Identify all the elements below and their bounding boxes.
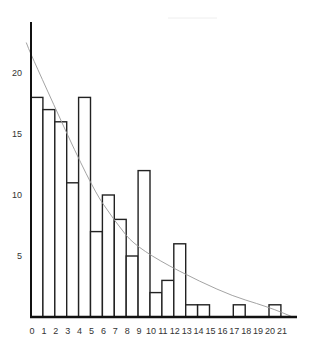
bar-6-7 xyxy=(102,195,114,317)
bar-10-11 xyxy=(150,293,162,317)
histogram-chart: 5101520 01234567891011121314151617181920… xyxy=(0,0,314,352)
bar-0-1 xyxy=(31,97,43,317)
bar-17-18 xyxy=(233,305,245,317)
x-tick-3: 3 xyxy=(65,326,70,336)
bar-9-10 xyxy=(138,171,150,317)
bar-14-15 xyxy=(198,305,210,317)
x-tick-16: 16 xyxy=(217,326,227,336)
bar-8-9 xyxy=(126,256,138,317)
x-tick-7: 7 xyxy=(113,326,118,336)
bar-13-14 xyxy=(186,305,198,317)
bar-2-3 xyxy=(55,122,67,317)
bars-group xyxy=(31,97,281,317)
x-tick-13: 13 xyxy=(182,326,192,336)
x-tick-11: 11 xyxy=(158,326,167,336)
bar-11-12 xyxy=(162,280,174,317)
x-tick-labels: 0123456789101112131415161718192021 xyxy=(29,326,286,336)
x-tick-10: 10 xyxy=(146,326,156,336)
x-tick-9: 9 xyxy=(137,326,142,336)
x-tick-21: 21 xyxy=(277,326,287,336)
bar-3-4 xyxy=(67,183,79,317)
y-tick-10: 10 xyxy=(12,190,22,200)
x-tick-1: 1 xyxy=(41,326,46,336)
x-tick-18: 18 xyxy=(241,326,251,336)
y-tick-15: 15 xyxy=(12,129,22,139)
bar-5-6 xyxy=(91,232,103,317)
x-tick-12: 12 xyxy=(170,326,180,336)
bar-4-5 xyxy=(79,97,91,317)
x-tick-8: 8 xyxy=(125,326,130,336)
x-tick-0: 0 xyxy=(29,326,34,336)
y-tick-5: 5 xyxy=(17,251,22,261)
x-tick-14: 14 xyxy=(194,326,204,336)
x-tick-4: 4 xyxy=(77,326,82,336)
bar-12-13 xyxy=(174,244,186,317)
x-tick-15: 15 xyxy=(205,326,215,336)
y-tick-20: 20 xyxy=(12,68,22,78)
bar-1-2 xyxy=(43,110,55,317)
x-tick-19: 19 xyxy=(253,326,263,336)
x-tick-2: 2 xyxy=(53,326,58,336)
bar-20-21 xyxy=(269,305,281,317)
x-tick-20: 20 xyxy=(265,326,275,336)
x-tick-5: 5 xyxy=(89,326,94,336)
y-tick-labels: 5101520 xyxy=(12,68,22,261)
x-tick-17: 17 xyxy=(229,326,239,336)
x-tick-6: 6 xyxy=(101,326,106,336)
bar-7-8 xyxy=(114,219,126,317)
